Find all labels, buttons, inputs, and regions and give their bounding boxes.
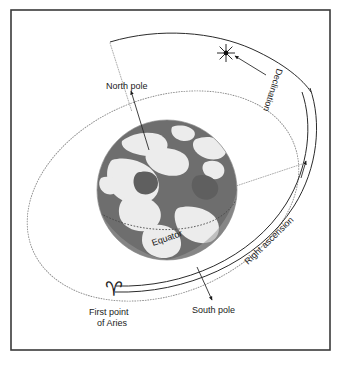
- declination-arrow: [235, 56, 266, 75]
- diagram-root: North pole South pole Equator Declinatio…: [0, 0, 345, 365]
- celestial-coordinates-figure: North pole South pole Equator Declinatio…: [0, 0, 345, 365]
- declination-construction-line: [110, 43, 132, 112]
- south-pole-arrow: [197, 267, 212, 300]
- aries-symbol-glyph: ♈: [105, 277, 123, 301]
- label-first-point-line1: First point: [89, 307, 129, 317]
- star-marker: [217, 44, 235, 62]
- label-south-pole: South pole: [192, 305, 235, 315]
- label-first-point-line2: of Aries: [97, 318, 128, 328]
- label-right-ascension: Right ascension: [242, 215, 295, 267]
- label-north-pole: North pole: [106, 81, 148, 91]
